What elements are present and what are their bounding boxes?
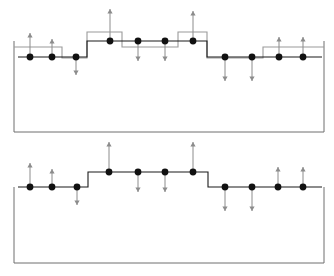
panel-bottom-diagram — [0, 140, 334, 276]
arrow-head — [74, 201, 79, 205]
site-arrow-up-4 — [107, 9, 112, 41]
arrow-head — [135, 57, 140, 61]
figure-root — [0, 0, 334, 276]
box-outline — [14, 187, 324, 263]
arrow-head — [249, 77, 254, 81]
site-dot-4[interactable] — [107, 38, 114, 45]
site-dot-11[interactable] — [300, 54, 307, 61]
arrow-head — [275, 167, 280, 171]
series-black-step-profile — [18, 41, 322, 57]
site-dot-10[interactable] — [276, 54, 283, 61]
site-arrow-down-8 — [222, 187, 227, 211]
site-dot-1[interactable] — [27, 54, 34, 61]
step-path — [18, 41, 322, 57]
site-dot-9[interactable] — [249, 184, 256, 191]
site-dot-11[interactable] — [300, 184, 307, 191]
arrow-head — [190, 11, 195, 15]
site-dot-7[interactable] — [190, 169, 197, 176]
site-dot-1[interactable] — [27, 184, 34, 191]
site-arrow-down-9 — [249, 187, 254, 211]
arrow-head — [107, 9, 112, 13]
site-dot-3[interactable] — [73, 54, 80, 61]
arrow-head — [190, 142, 195, 146]
site-dot-2[interactable] — [49, 54, 56, 61]
arrow-head — [300, 167, 305, 171]
site-dot-4[interactable] — [106, 169, 113, 176]
arrow-head — [73, 71, 78, 75]
site-dot-5[interactable] — [135, 169, 142, 176]
site-dot-8[interactable] — [222, 184, 229, 191]
site-arrow-up-1 — [27, 163, 32, 187]
arrow-head — [27, 163, 32, 167]
site-arrow-up-4 — [106, 142, 111, 172]
site-dot-9[interactable] — [249, 54, 256, 61]
site-dot-7[interactable] — [190, 38, 197, 45]
site-arrow-down-8 — [222, 57, 227, 81]
arrow-head — [106, 142, 111, 146]
arrow-head — [49, 39, 54, 43]
arrow-head — [276, 37, 281, 41]
panel-boundary-box — [14, 187, 324, 263]
site-dot-3[interactable] — [74, 184, 81, 191]
site-dot-2[interactable] — [49, 184, 56, 191]
site-dot-5[interactable] — [135, 38, 142, 45]
arrow-head — [49, 169, 54, 173]
arrow-head — [162, 57, 167, 61]
site-arrow-up-7 — [190, 11, 195, 41]
site-dot-6[interactable] — [162, 38, 169, 45]
site-arrow-up-1 — [27, 33, 32, 57]
panel-top-diagram — [0, 0, 334, 140]
arrow-head — [300, 37, 305, 41]
site-arrow-up-7 — [190, 142, 195, 172]
site-dot-10[interactable] — [275, 184, 282, 191]
site-dot-6[interactable] — [162, 169, 169, 176]
arrow-head — [27, 33, 32, 37]
arrow-head — [249, 207, 254, 211]
arrow-head — [222, 207, 227, 211]
arrow-head — [222, 77, 227, 81]
site-arrow-down-9 — [249, 57, 254, 81]
arrow-head — [162, 188, 167, 192]
site-dot-8[interactable] — [222, 54, 229, 61]
arrow-head — [135, 188, 140, 192]
